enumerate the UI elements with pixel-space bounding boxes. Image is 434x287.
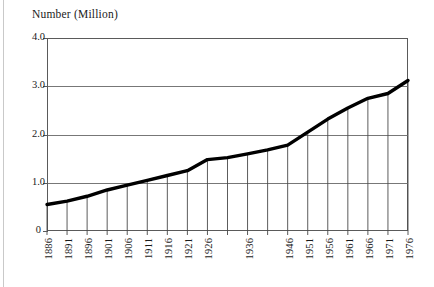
x-tick-label-1946: 1946 bbox=[284, 238, 295, 259]
x-tick-label-1921: 1921 bbox=[183, 238, 194, 259]
x-tick-label-1916: 1916 bbox=[163, 238, 174, 259]
chart-axis-title: Number (Million) bbox=[32, 8, 118, 20]
x-tick-label-1976: 1976 bbox=[404, 238, 415, 259]
x-tick-label-1906: 1906 bbox=[123, 238, 134, 259]
droplines-group bbox=[47, 80, 408, 231]
y-tick-label-2.0: 2.0 bbox=[32, 128, 45, 139]
x-tick-label-1956: 1956 bbox=[324, 238, 335, 259]
x-tick-label-1926: 1926 bbox=[203, 238, 214, 259]
plot-series-layer bbox=[47, 38, 408, 231]
y-tick-label-4.0: 4.0 bbox=[32, 31, 45, 42]
y-tick-label-1.0: 1.0 bbox=[32, 176, 45, 187]
x-tick-label-1896: 1896 bbox=[83, 238, 94, 259]
x-axis-tick-marks bbox=[47, 231, 408, 235]
x-tick-label-1966: 1966 bbox=[364, 238, 375, 259]
x-tick-label-1961: 1961 bbox=[344, 238, 355, 259]
page-edge-artifact bbox=[3, 0, 4, 287]
x-tick-label-1911: 1911 bbox=[143, 238, 154, 259]
x-tick-label-1951: 1951 bbox=[304, 238, 315, 259]
x-tick-label-1901: 1901 bbox=[103, 238, 114, 259]
x-tick-label-1886: 1886 bbox=[43, 238, 54, 259]
chart-figure: Number (Million) 01.02.03.04.0 188618911… bbox=[0, 0, 434, 287]
x-tick-label-1891: 1891 bbox=[63, 238, 74, 259]
x-tick-label-1936: 1936 bbox=[244, 238, 255, 259]
y-tick-label-0: 0 bbox=[36, 224, 41, 235]
y-tick-label-3.0: 3.0 bbox=[32, 79, 45, 90]
x-tick-label-1971: 1971 bbox=[384, 238, 395, 259]
